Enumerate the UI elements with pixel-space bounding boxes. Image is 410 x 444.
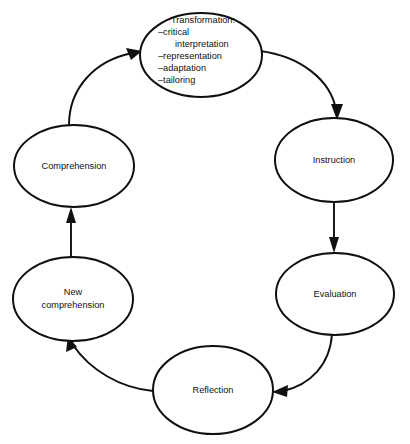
cycle-diagram-canvas: Transformation: –critical interpretation… <box>0 0 410 444</box>
node-transformation[interactable]: Transformation: –critical interpretation… <box>140 13 262 97</box>
node-instruction-label: Instruction <box>313 155 355 165</box>
node-transformation-item-0-cont: interpretation <box>175 39 229 49</box>
edge-new-comprehension-to-comprehension <box>66 207 76 257</box>
node-new-comprehension-shape[interactable] <box>13 257 133 341</box>
node-transformation-item-3: –tailoring <box>158 75 195 85</box>
arrowhead-icon <box>66 207 76 223</box>
edge-evaluation-to-reflection <box>272 334 332 397</box>
node-transformation-title: Transformation: <box>171 15 235 25</box>
node-comprehension-label: Comprehension <box>42 161 107 171</box>
edge-reflection-to-new-comprehension <box>66 336 153 391</box>
node-comprehension[interactable]: Comprehension <box>14 125 134 207</box>
node-evaluation[interactable]: Evaluation <box>276 253 394 335</box>
edge-path <box>283 334 332 391</box>
edge-instruction-to-evaluation <box>329 202 339 253</box>
edge-path <box>260 51 336 110</box>
node-new-comprehension-label-line2: comprehension <box>42 300 105 310</box>
edge-path <box>73 345 153 391</box>
node-new-comprehension-label-line1: New <box>64 287 83 297</box>
node-transformation-item-2: –adaptation <box>158 63 206 73</box>
node-transformation-item-1: –representation <box>158 51 222 61</box>
node-transformation-item-0: –critical <box>158 27 189 37</box>
node-reflection-label: Reflection <box>193 385 234 395</box>
node-instruction[interactable]: Instruction <box>275 118 393 202</box>
edge-comprehension-to-transformation <box>69 48 142 125</box>
cycle-diagram: Transformation: –critical interpretation… <box>0 0 410 444</box>
edge-transformation-to-instruction <box>260 51 343 120</box>
node-evaluation-label: Evaluation <box>314 289 357 299</box>
edge-path <box>69 53 133 125</box>
arrowhead-icon <box>272 385 288 397</box>
node-reflection[interactable]: Reflection <box>153 346 273 434</box>
arrowhead-icon <box>329 237 339 253</box>
node-new-comprehension[interactable]: New comprehension <box>13 257 133 341</box>
